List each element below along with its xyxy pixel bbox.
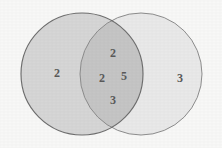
label-left-only: 2 bbox=[54, 66, 60, 80]
label-intersection-right: 5 bbox=[121, 69, 127, 83]
venn-svg: 2 2 2 5 3 3 bbox=[0, 0, 222, 148]
label-intersection-top: 2 bbox=[110, 46, 116, 60]
venn-diagram: 2 2 2 5 3 3 bbox=[0, 0, 222, 148]
label-intersection-left: 2 bbox=[99, 71, 105, 85]
label-intersection-bottom: 3 bbox=[110, 93, 116, 107]
label-right-only: 3 bbox=[177, 71, 183, 85]
